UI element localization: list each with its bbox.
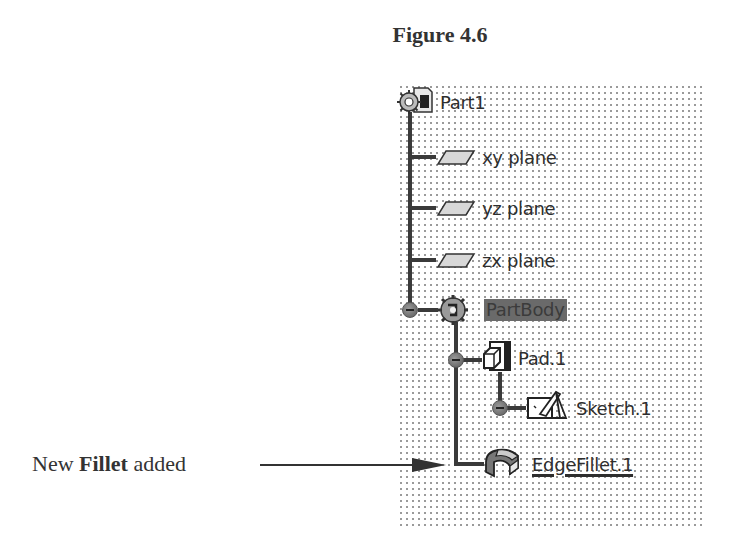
tree-item-label: zx plane [482,250,555,272]
tree-branch-pad [462,358,482,362]
annotation-prefix: New [32,451,79,476]
tree-branch-yz [410,206,436,210]
edge-fillet-icon [484,446,522,478]
tree-item-edgefillet[interactable]: EdgeFillet.1 [484,446,674,482]
collapse-node-partbody[interactable] [402,302,418,318]
tree-item-label: xy plane [482,147,557,169]
tree-item-zx-plane[interactable]: zx plane [436,249,616,273]
body-gear-icon [436,294,470,326]
tree-trunk-pad [498,372,502,402]
tree-item-label: EdgeFillet.1 [532,454,633,476]
tree-branch-zx [410,258,436,262]
tree-item-xy-plane[interactable]: xy plane [436,146,616,170]
part-document-icon [396,86,434,116]
plane-icon [436,201,476,217]
tree-item-yz-plane[interactable]: yz plane [436,197,616,221]
tree-item-pad[interactable]: Pad.1 [482,340,602,376]
tree-item-label: Sketch.1 [576,398,651,420]
annotation-arrow-icon [260,456,450,474]
tree-item-partbody[interactable]: PartBody [436,294,616,326]
annotation-bold-word: Fillet [79,451,128,476]
pad-icon [482,340,512,374]
tree-branch-edgefillet [454,462,484,466]
tree-branch-partbody [418,308,438,312]
tree-item-label: Pad.1 [518,348,566,370]
annotation-suffix: added [128,451,186,476]
figure-title: Figure 4.6 [380,22,500,48]
plane-icon [436,253,476,269]
annotation-text: New Fillet added [32,451,186,477]
tree-item-label: PartBody [484,299,567,321]
tree-item-sketch[interactable]: Sketch.1 [526,388,686,424]
collapse-node-pad[interactable] [448,352,464,368]
collapse-node-sketch[interactable] [492,400,508,416]
tree-branch-xy [410,155,436,159]
sketch-icon [526,390,574,420]
plane-icon [436,150,476,166]
tree-item-label: Part1 [440,92,486,114]
tree-trunk-partbody [454,322,458,466]
tree-branch-sketch [506,406,526,410]
tree-item-part1[interactable]: Part1 [396,86,486,116]
tree-item-label: yz plane [482,198,555,220]
